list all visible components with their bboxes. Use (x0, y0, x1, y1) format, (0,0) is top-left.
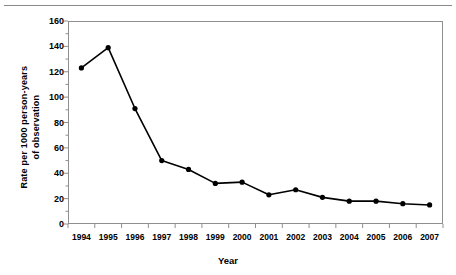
x-axis-tick-label: 1999 (206, 233, 225, 242)
x-axis-tick-label: 1997 (152, 233, 171, 242)
data-point (293, 187, 298, 192)
x-axis-tick-label: 2005 (367, 233, 386, 242)
data-point (132, 106, 137, 111)
chart-figure: Rate per 1000 person-years of observatio… (0, 0, 456, 275)
x-axis-tick-labels: 1994199519961997199819992000200120022003… (0, 233, 456, 247)
x-axis-title: Year (0, 255, 456, 266)
x-axis-tick-label: 2002 (286, 233, 305, 242)
x-axis-tick-label: 2000 (233, 233, 252, 242)
y-axis-ticks (64, 21, 68, 224)
x-axis-tick-label: 2007 (420, 233, 439, 242)
data-point (266, 192, 271, 197)
x-axis-tick-label: 1994 (72, 233, 91, 242)
data-series-line (81, 48, 429, 205)
data-point (106, 45, 111, 50)
x-axis-tick-label: 1995 (99, 233, 118, 242)
data-point (320, 195, 325, 200)
data-point (159, 158, 164, 163)
x-axis-tick-label: 2004 (340, 233, 359, 242)
x-axis-tick-label: 1998 (179, 233, 198, 242)
data-point (186, 167, 191, 172)
data-point (427, 202, 432, 207)
x-axis-tick-label: 1996 (125, 233, 144, 242)
data-point (213, 181, 218, 186)
x-axis-ticks (68, 224, 443, 228)
x-axis-tick-label: 2006 (393, 233, 412, 242)
data-point (240, 180, 245, 185)
data-point (400, 201, 405, 206)
x-axis-tick-label: 2003 (313, 233, 332, 242)
data-series-markers (79, 45, 432, 208)
data-point (347, 199, 352, 204)
data-point (79, 65, 84, 70)
x-axis-tick-label: 2001 (259, 233, 278, 242)
data-point (373, 199, 378, 204)
